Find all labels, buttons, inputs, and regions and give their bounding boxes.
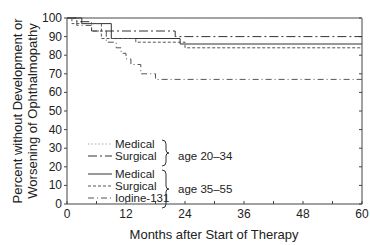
legend-group-label: age 20–34: [178, 150, 233, 162]
y-tick-label: 90: [49, 30, 63, 44]
y-tick-label: 30: [49, 141, 63, 155]
y-tick-label: 70: [49, 67, 63, 81]
y-tick-label: 80: [49, 48, 63, 62]
y-tick-label: 0: [55, 197, 62, 211]
legend-entry: Medical: [115, 138, 155, 150]
legend-brace: [162, 140, 169, 166]
x-tick-label: 0: [64, 207, 71, 221]
y-tick-label: 60: [49, 85, 63, 99]
legend-group-label: age 35–55: [178, 183, 232, 195]
x-tick-label: 12: [119, 207, 133, 221]
y-tick-label: 40: [49, 123, 63, 137]
legend-entry: Iodine-131: [115, 192, 169, 204]
x-tick-label: 60: [355, 207, 369, 221]
x-axis-label: Months after Start of Therapy: [130, 227, 299, 242]
y-tick-label: 50: [49, 104, 63, 118]
y-axis-label-line2: Worsening of Ophthalmopathy: [25, 23, 40, 199]
legend-entry: Medical: [115, 168, 155, 180]
kaplan-meier-chart: 010203040506070809010001224364860 Medica…: [0, 0, 370, 245]
legend-entry: Surgical: [115, 150, 157, 162]
y-tick-label: 10: [49, 178, 63, 192]
x-tick-label: 36: [237, 207, 251, 221]
legend: MedicalSurgicalMedicalSurgicalIodine-131…: [88, 138, 233, 208]
y-tick-label: 20: [49, 160, 63, 174]
x-tick-label: 24: [178, 207, 192, 221]
y-tick-label: 100: [42, 11, 62, 25]
y-axis-label-line1: Percent without Development or: [10, 18, 25, 204]
survival-curves: [67, 18, 362, 79]
x-tick-label: 48: [296, 207, 310, 221]
legend-entry: Surgical: [115, 180, 157, 192]
curve-medical-age-35-55: [67, 18, 362, 44]
plot-frame: [67, 18, 362, 204]
